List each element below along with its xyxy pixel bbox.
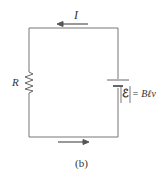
battery [107,80,129,86]
current-arrow-bottom [58,140,89,145]
emf-symbol: ℰ [122,87,129,100]
resistor [25,72,33,93]
emf-equation: = Bℓv [132,88,156,99]
figure-caption: (b) [75,157,88,169]
current-arrow-top [57,22,88,27]
current-label: I [74,8,78,23]
resistor-label: R [12,76,19,88]
circuit-wires [29,28,118,137]
